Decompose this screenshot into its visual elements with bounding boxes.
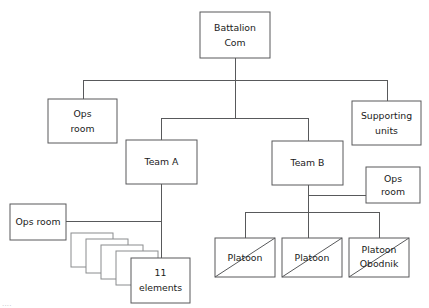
node-battalion-com-label-line1: Battalion — [214, 22, 256, 33]
node-ops-room-right-label-line1: Ops — [384, 173, 402, 184]
node-platoon-3-label-line2: Obodnik — [360, 258, 399, 269]
node-battalion-com-box[interactable] — [200, 12, 270, 58]
node-battalion-com-label-line2: Com — [224, 37, 245, 48]
node-elements-stack[interactable]: 11 elements — [131, 258, 190, 303]
node-team-a[interactable]: Team A — [126, 140, 197, 184]
node-ops-room-left-bottom[interactable]: Ops room — [10, 204, 66, 240]
node-elements-stack-label-line2: elements — [139, 282, 182, 293]
node-platoon-1[interactable]: Platoon — [215, 238, 275, 277]
org-chart-canvas: Battalion Com Ops room Supporting units … — [0, 0, 429, 308]
node-platoon-2[interactable]: Platoon — [282, 238, 342, 277]
node-platoon-3-label-line1: Platoon — [362, 244, 397, 255]
node-ops-room-right[interactable]: Ops room — [366, 167, 420, 203]
node-ops-room-right-label-line2: room — [381, 186, 405, 197]
node-battalion-com[interactable]: Battalion Com — [200, 12, 270, 58]
node-platoon-1-label: Platoon — [228, 252, 263, 263]
node-ops-room-left-bottom-label: Ops room — [15, 216, 60, 227]
node-supporting-units-label-line1: Supporting — [361, 110, 412, 121]
page-caption: .... — [2, 301, 122, 308]
node-supporting-units-label-line2: units — [375, 125, 398, 136]
node-ops-room-left-top-label-line2: room — [70, 123, 94, 134]
node-team-b[interactable]: Team B — [272, 141, 343, 185]
node-elements-stack-box[interactable] — [131, 258, 190, 303]
node-ops-room-left-top-box[interactable] — [48, 99, 117, 143]
org-chart-diagram: Battalion Com Ops room Supporting units … — [0, 0, 429, 308]
node-elements-stack-label-line1: 11 — [155, 267, 167, 278]
node-platoon-2-label: Platoon — [295, 252, 330, 263]
node-team-a-label: Team A — [144, 156, 180, 167]
node-ops-room-left-top[interactable]: Ops room — [48, 99, 117, 143]
node-platoon-3[interactable]: Platoon Obodnik — [349, 238, 409, 277]
node-team-b-label: Team B — [290, 157, 325, 168]
node-supporting-units[interactable]: Supporting units — [352, 101, 421, 145]
node-supporting-units-box[interactable] — [352, 101, 421, 145]
node-ops-room-left-top-label-line1: Ops — [73, 108, 91, 119]
